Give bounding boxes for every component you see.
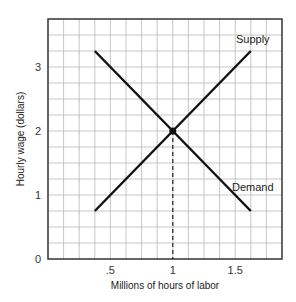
y-tick-label: 1 xyxy=(35,189,41,201)
equilibrium-point xyxy=(169,128,176,135)
x-tick-label: 1.5 xyxy=(228,264,243,276)
supply-demand-chart: .511.5 0123 Millions of hours of labor H… xyxy=(0,0,296,302)
y-tick-label: 2 xyxy=(35,125,41,137)
y-tick-labels: 0123 xyxy=(35,61,41,265)
y-axis-label: Hourly wage (dollars) xyxy=(15,92,26,186)
x-tick-label: 1 xyxy=(170,264,176,276)
y-tick-label: 0 xyxy=(35,253,41,265)
demand-label: Demand xyxy=(232,181,274,193)
x-axis-label: Millions of hours of labor xyxy=(111,280,220,291)
supply-label: Supply xyxy=(236,33,270,45)
y-tick-label: 3 xyxy=(35,61,41,73)
x-tick-label: .5 xyxy=(106,264,115,276)
x-tick-labels: .511.5 xyxy=(106,264,243,276)
